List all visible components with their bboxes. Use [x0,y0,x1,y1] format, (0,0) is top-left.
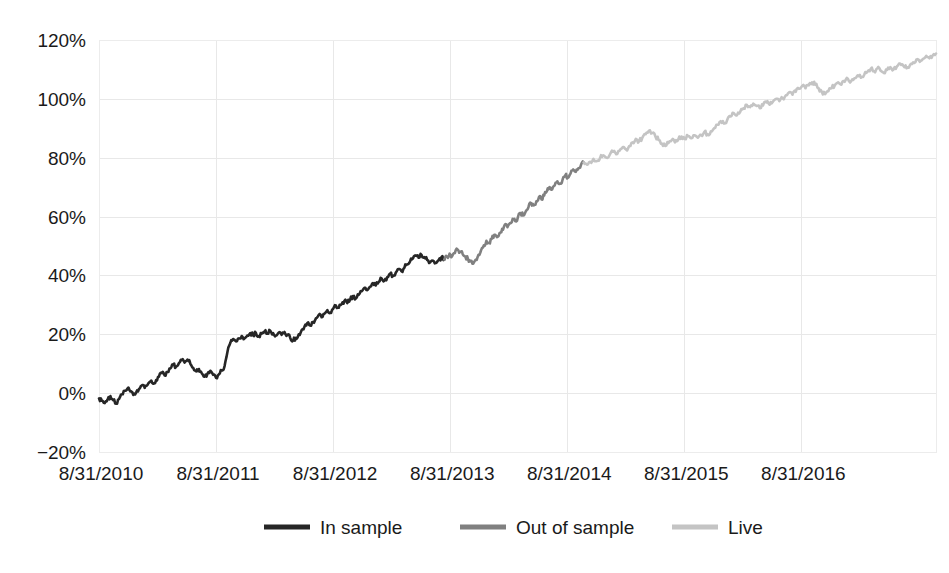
legend-label-in-sample: In sample [320,517,402,538]
horizontal-gridlines [99,41,936,453]
plot-area-border [100,41,937,453]
x-axis-tick-label: 8/31/2010 [59,463,144,484]
y-axis-tick-label: 40% [48,265,86,286]
x-axis-tick-label: 8/31/2013 [410,463,495,484]
series-line-out-of-sample [444,161,583,263]
x-axis-tick-label: 8/31/2016 [761,463,846,484]
x-axis-tick-label: 8/31/2011 [177,463,260,484]
vertical-gridlines [100,40,802,452]
y-axis-tick-label: 60% [48,207,86,228]
series-line-in-sample [99,254,444,404]
series-line-live [584,54,936,165]
y-axis-tick-label: 80% [48,148,86,169]
chart-legend: In sampleOut of sampleLive [264,517,763,538]
y-axis-tick-label: 0% [59,383,87,404]
x-axis-tick-label: 8/31/2012 [293,463,378,484]
y-axis-tick-label: 20% [48,324,86,345]
y-axis-tick-label: −20% [37,442,86,463]
y-axis-tick-label: 100% [37,89,86,110]
legend-label-live: Live [728,517,763,538]
y-axis-tick-label: 120% [37,30,86,51]
chart-container: 120%100%80%60%40%20%0%−20% 8/31/20108/31… [0,0,949,573]
x-axis-tick-label: 8/31/2015 [644,463,729,484]
x-axis-tick-label: 8/31/2014 [527,463,612,484]
legend-label-out-of-sample: Out of sample [516,517,634,538]
y-axis-tick-labels: 120%100%80%60%40%20%0%−20% [37,30,86,463]
data-series-group [99,54,936,404]
line-chart: 120%100%80%60%40%20%0%−20% 8/31/20108/31… [0,0,949,573]
x-axis-tick-labels: 8/31/20108/31/20118/31/20128/31/20138/31… [59,463,846,484]
